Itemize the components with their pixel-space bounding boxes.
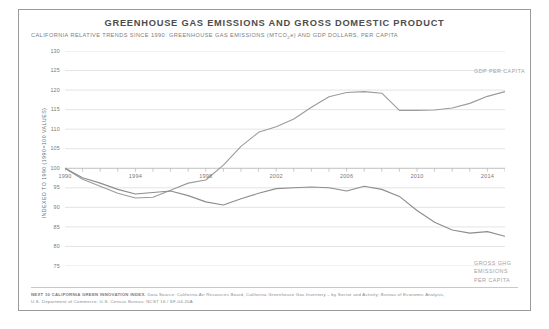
series-label-ghg: GROSS GHG EMISSIONS PER CAPITA bbox=[474, 259, 511, 284]
footer-rest: Data Source: California Air Resources Bo… bbox=[146, 292, 445, 297]
series-label-ghg-line3: PER CAPITA bbox=[474, 276, 511, 284]
y-tick-label: 115 bbox=[40, 106, 60, 112]
y-tick-label: 80 bbox=[40, 243, 60, 249]
y-tick-label: 100 bbox=[40, 165, 60, 171]
x-tick-label: 1998 bbox=[191, 173, 221, 179]
chart-subtitle: CALIFORNIA RELATIVE TRENDS SINCE 1990: G… bbox=[31, 32, 398, 40]
series-label-ghg-line1: GROSS GHG bbox=[474, 259, 511, 267]
subtitle-pre: CALIFORNIA RELATIVE TRENDS SINCE 1990: G… bbox=[31, 32, 287, 38]
footer-line-2: U.S. Department of Commerce; U.S. Census… bbox=[31, 298, 445, 305]
y-tick-label: 130 bbox=[40, 48, 60, 54]
x-tick-label: 2014 bbox=[472, 173, 502, 179]
chart-page: GREENHOUSE GAS EMISSIONS AND GROSS DOMES… bbox=[0, 0, 549, 329]
footer-source: NEXT 10 CALIFORNIA GREEN INNOVATION INDE… bbox=[31, 291, 445, 306]
footer-divider bbox=[31, 287, 518, 288]
plot-svg bbox=[65, 51, 505, 266]
footer-line-1: NEXT 10 CALIFORNIA GREEN INNOVATION INDE… bbox=[31, 291, 445, 298]
y-tick-label: 120 bbox=[40, 87, 60, 93]
x-tick-label: 2010 bbox=[402, 173, 432, 179]
series-label-ghg-line2: EMISSIONS bbox=[474, 267, 511, 275]
plot-area bbox=[65, 51, 505, 266]
y-tick-label: 125 bbox=[40, 67, 60, 73]
y-tick-label: 110 bbox=[40, 126, 60, 132]
y-tick-label: 105 bbox=[40, 145, 60, 151]
series-label-gdp: GDP PER CAPITA bbox=[474, 67, 525, 75]
y-tick-label: 95 bbox=[40, 184, 60, 190]
y-tick-label: 85 bbox=[40, 224, 60, 230]
x-tick-label: 2002 bbox=[261, 173, 291, 179]
footer-lead: NEXT 10 CALIFORNIA GREEN INNOVATION INDE… bbox=[31, 292, 146, 297]
data-series-line-gdp bbox=[65, 92, 505, 198]
chart-title: GREENHOUSE GAS EMISSIONS AND GROSS DOMES… bbox=[19, 18, 530, 28]
y-tick-label: 75 bbox=[40, 263, 60, 269]
x-tick-label: 1990 bbox=[50, 173, 80, 179]
series-label-gdp-line1: GDP PER CAPITA bbox=[474, 67, 525, 75]
x-tick-label: 1994 bbox=[120, 173, 150, 179]
chart-frame: GREENHOUSE GAS EMISSIONS AND GROSS DOMES… bbox=[18, 9, 531, 311]
x-tick-label: 2006 bbox=[332, 173, 362, 179]
y-tick-label: 90 bbox=[40, 204, 60, 210]
subtitle-post: e) AND GDP DOLLARS, PER CAPITA bbox=[290, 32, 398, 38]
